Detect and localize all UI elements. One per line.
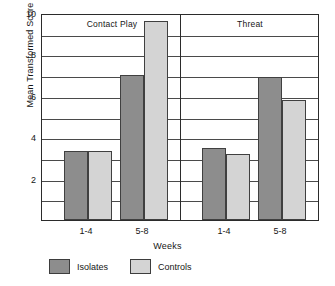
bar-threat-1-4-isolates xyxy=(202,148,226,220)
plot-area: Contact Play Threat xyxy=(41,14,319,221)
y-tick-label-2: 2 xyxy=(11,175,36,185)
y-tick-label-6: 6 xyxy=(11,92,36,102)
bar-contact-play-1-4-controls xyxy=(88,151,112,220)
bar-contact-play-5-8-isolates xyxy=(120,75,144,220)
y-tick-label-10: 10 xyxy=(11,9,36,19)
y-tick-label-4: 4 xyxy=(11,133,36,143)
x-tick-label-threat-5-8: 5-8 xyxy=(260,226,300,236)
bar-contact-play-1-4-isolates xyxy=(64,151,88,220)
legend-label-isolates: Isolates xyxy=(77,262,108,272)
x-tick-label-threat-1-4: 1-4 xyxy=(204,226,244,236)
bar-contact-play-5-8-controls xyxy=(144,21,168,220)
bar-threat-1-4-controls xyxy=(226,154,250,220)
bar-chart-figure: Mean Transformed Score 10 8 6 4 2 Contac… xyxy=(0,0,335,286)
x-tick-label-contact-play-1-4: 1-4 xyxy=(66,226,106,236)
panel-title-threat: Threat xyxy=(194,19,306,29)
bar-threat-5-8-isolates xyxy=(258,77,282,220)
legend-swatch-isolates-icon xyxy=(49,259,70,274)
legend-label-controls: Controls xyxy=(158,262,192,272)
y-tick-label-8: 8 xyxy=(11,50,36,60)
legend-entry-isolates: Isolates xyxy=(49,259,108,274)
panel-divider xyxy=(180,15,181,220)
x-tick-label-contact-play-5-8: 5-8 xyxy=(122,226,162,236)
x-axis-title: Weeks xyxy=(0,241,335,251)
chart-legend: Isolates Controls xyxy=(49,259,192,274)
bar-threat-5-8-controls xyxy=(282,100,306,220)
legend-entry-controls: Controls xyxy=(130,259,192,274)
legend-swatch-controls-icon xyxy=(130,259,151,274)
